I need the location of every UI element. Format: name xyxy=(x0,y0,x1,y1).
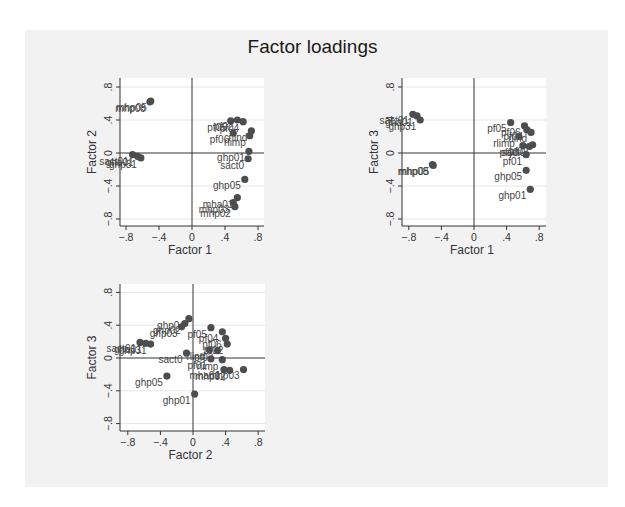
data-point xyxy=(163,372,170,379)
y-tick-label: .8 xyxy=(102,82,114,91)
x-tick-label: .4 xyxy=(502,231,511,243)
point-label: pf06 xyxy=(210,134,230,145)
data-point xyxy=(245,155,252,162)
y-tick-label: .8 xyxy=(102,288,114,297)
data-point xyxy=(245,148,252,155)
x-tick-label: .8 xyxy=(254,231,263,243)
x-tick-label: .4 xyxy=(221,231,230,243)
point-label: sact0 xyxy=(159,354,183,365)
data-point xyxy=(240,118,247,125)
data-point xyxy=(417,116,424,123)
data-point xyxy=(147,340,154,347)
y-axis-title: Factor 3 xyxy=(367,130,381,174)
data-point xyxy=(507,119,514,126)
point-label: mhp08 xyxy=(398,166,429,177)
data-point xyxy=(146,98,153,105)
data-point xyxy=(526,143,533,150)
y-tick-label: .4 xyxy=(102,115,114,124)
data-point xyxy=(207,324,214,331)
data-point xyxy=(527,186,534,193)
data-point xyxy=(219,328,226,335)
point-label: pf01 xyxy=(503,156,523,167)
point-label: mhp08 xyxy=(115,103,146,114)
data-point xyxy=(214,347,221,354)
data-point xyxy=(523,167,530,174)
y-tick-label: −.8 xyxy=(384,211,396,226)
scatter-matrix: −.8−.40.4.8−.8−.40.4.8Factor 1Factor 2mh… xyxy=(0,0,625,507)
data-point xyxy=(137,154,144,161)
y-tick-label: 0 xyxy=(102,355,114,361)
x-tick-label: −.4 xyxy=(152,231,167,243)
data-point xyxy=(515,133,522,140)
point-label: ghp31 xyxy=(109,159,137,170)
x-axis-title: Factor 2 xyxy=(168,448,212,462)
data-point xyxy=(219,356,226,363)
x-tick-label: .8 xyxy=(254,436,263,448)
point-label: ghp31 xyxy=(119,345,147,356)
x-tick-label: 0 xyxy=(190,436,196,448)
y-tick-label: −.4 xyxy=(102,178,114,193)
point-label: ghp05 xyxy=(135,377,163,388)
point-label: ghp01 xyxy=(163,395,191,406)
data-point xyxy=(178,323,185,330)
data-point xyxy=(224,340,231,347)
data-point xyxy=(429,161,436,168)
panel-factor1-vs-factor2: −.8−.40.4.8−.8−.40.4.8Factor 1Factor 2mh… xyxy=(85,78,264,257)
x-tick-label: −.4 xyxy=(434,231,449,243)
y-tick-label: −.8 xyxy=(102,416,114,431)
x-tick-label: 0 xyxy=(471,231,477,243)
point-label: ghp31 xyxy=(388,121,416,132)
data-point xyxy=(523,151,530,158)
x-tick-label: −.4 xyxy=(153,436,168,448)
y-tick-label: 0 xyxy=(384,150,396,156)
data-point xyxy=(231,203,238,210)
point-label: ghp03 xyxy=(150,328,178,339)
point-label: ghp05 xyxy=(213,180,241,191)
point-label: ghp05 xyxy=(494,171,522,182)
y-tick-label: −.4 xyxy=(384,178,396,193)
data-point xyxy=(230,130,237,137)
y-tick-label: −.8 xyxy=(102,211,114,226)
data-point xyxy=(527,129,534,136)
point-label: ghp01 xyxy=(498,190,526,201)
x-tick-label: .8 xyxy=(535,231,544,243)
x-tick-label: −.8 xyxy=(401,231,416,243)
point-label: pf01 xyxy=(187,360,207,371)
data-point xyxy=(240,366,247,373)
y-tick-label: .4 xyxy=(102,321,114,330)
point-label: mhp02 xyxy=(200,208,231,219)
x-axis-title: Factor 1 xyxy=(450,243,494,257)
data-point xyxy=(206,346,213,353)
data-point xyxy=(183,349,190,356)
data-point xyxy=(241,176,248,183)
x-tick-label: −.8 xyxy=(120,436,135,448)
x-tick-label: .4 xyxy=(221,436,230,448)
x-tick-label: 0 xyxy=(189,231,195,243)
data-point xyxy=(246,132,253,139)
x-tick-label: −.8 xyxy=(119,231,134,243)
point-label: mhp03 xyxy=(209,370,240,381)
data-point xyxy=(207,355,214,362)
x-axis-title: Factor 1 xyxy=(168,243,212,257)
y-tick-label: −.4 xyxy=(102,383,114,398)
data-point xyxy=(191,390,198,397)
panel-factor2-vs-factor3: −.8−.40.4.8−.8−.40.4.8Factor 2Factor 3sa… xyxy=(85,284,265,462)
y-axis-title: Factor 2 xyxy=(85,130,99,174)
y-axis-title: Factor 3 xyxy=(85,335,99,379)
point-label: sact0 xyxy=(220,160,244,171)
panel-factor1-vs-factor3: −.8−.40.4.8−.8−.40.4.8Factor 1Factor 3sa… xyxy=(367,78,546,257)
y-tick-label: .8 xyxy=(384,82,396,91)
